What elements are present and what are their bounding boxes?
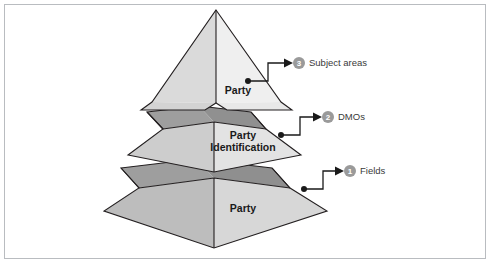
tier-bottom-left-face [104, 178, 214, 248]
pyramid-tier-top: Party [141, 10, 292, 110]
tier-middle-label-line2: Identification [210, 141, 275, 153]
tier-top-base-right [216, 102, 292, 110]
callout-connector-line-bottom [306, 171, 335, 189]
pyramid-diagram: Party Party Identification [0, 0, 490, 263]
tier-middle-label-line1: Party [230, 129, 256, 141]
callout-arrowhead-bottom [335, 167, 344, 176]
callout-badge-1-number: 1 [348, 167, 353, 176]
callout-label-dmos: DMOs [338, 111, 365, 122]
callout-dmos[interactable]: 2 DMOs [278, 111, 365, 138]
figure-root: Party Party Identification [0, 0, 490, 263]
callout-fields[interactable]: 1 Fields [301, 165, 386, 192]
callout-badge-2-number: 2 [326, 113, 331, 122]
callout-arrowhead-middle [313, 113, 322, 122]
tier-top-base-left [141, 102, 216, 110]
tier-top-label: Party [225, 84, 251, 96]
callout-badge-3-number: 3 [297, 59, 302, 68]
callout-label-subject-areas: Subject areas [309, 57, 367, 68]
callout-connector-line-middle [283, 117, 313, 135]
pyramid-tier-bottom: Party [104, 159, 327, 248]
callout-label-fields: Fields [360, 165, 386, 176]
callout-arrowhead-top [284, 59, 293, 68]
tier-bottom-label: Party [230, 202, 256, 214]
pyramid-tier-middle: Party Identification [128, 106, 301, 172]
